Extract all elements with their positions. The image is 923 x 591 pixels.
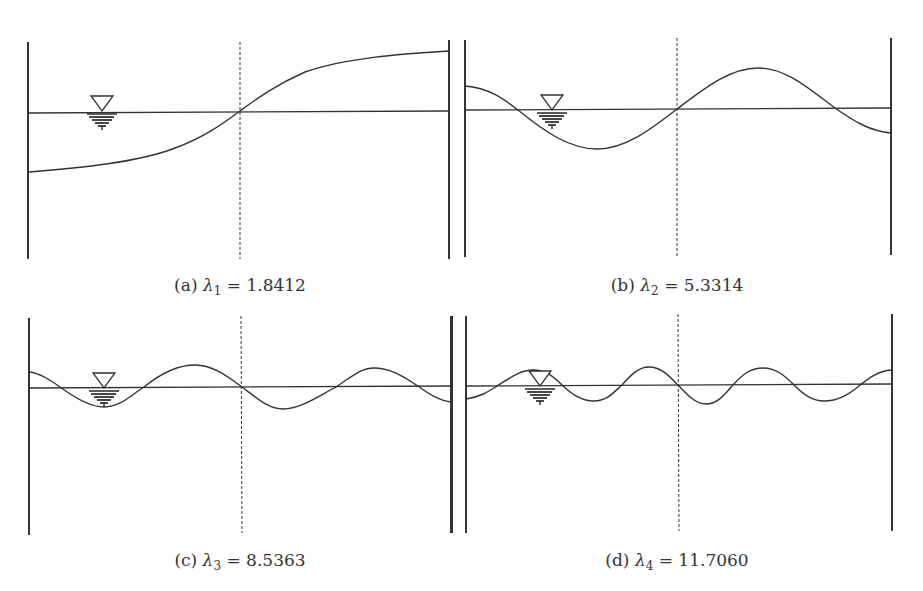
lambda-symbol: λ bbox=[203, 550, 214, 570]
caption-a: (a) λ1 = 1.8412 bbox=[174, 277, 306, 297]
lambda-subscript: 2 bbox=[651, 284, 659, 298]
caption-d: (d) λ4 = 11.7060 bbox=[605, 552, 748, 572]
lambda-subscript: 4 bbox=[646, 559, 654, 573]
eigenvalue: 11.7060 bbox=[678, 550, 748, 570]
equals-sign: = bbox=[227, 275, 241, 295]
equals-sign: = bbox=[659, 550, 673, 570]
caption-c: (c) λ3 = 8.5363 bbox=[174, 552, 305, 572]
lambda-subscript: 1 bbox=[214, 284, 222, 298]
panel-c-mode-3 bbox=[29, 316, 451, 535]
center-dashed-line bbox=[678, 314, 679, 531]
caption-tag: (c) bbox=[174, 550, 197, 570]
caption-tag: (a) bbox=[174, 275, 197, 295]
lambda-symbol: λ bbox=[203, 275, 214, 295]
lambda-symbol: λ bbox=[635, 550, 646, 570]
lambda-subscript: 3 bbox=[213, 559, 221, 573]
sloshing-mode-figure bbox=[0, 0, 923, 591]
eigenvalue: 5.3314 bbox=[684, 275, 743, 295]
center-dashed-line bbox=[241, 316, 242, 533]
water-level-icon bbox=[525, 371, 555, 405]
lambda-symbol: λ bbox=[640, 275, 651, 295]
caption-b: (b) λ2 = 5.3314 bbox=[611, 277, 744, 297]
eigenvalue: 8.5363 bbox=[246, 550, 305, 570]
panel-a-mode-1 bbox=[28, 40, 449, 259]
equals-sign: = bbox=[664, 275, 678, 295]
eigenvalue: 1.8412 bbox=[246, 275, 305, 295]
equals-sign: = bbox=[226, 550, 240, 570]
water-level-icon bbox=[537, 95, 567, 129]
water-level-icon bbox=[89, 373, 119, 407]
caption-tag: (b) bbox=[611, 275, 635, 295]
panel-d-mode-4 bbox=[452, 314, 892, 533]
caption-tag: (d) bbox=[605, 550, 629, 570]
panel-b-mode-2 bbox=[465, 38, 891, 257]
